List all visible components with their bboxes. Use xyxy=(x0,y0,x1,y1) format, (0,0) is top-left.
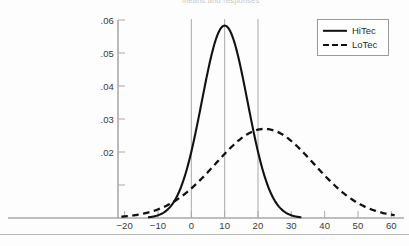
reference-line-group xyxy=(191,19,258,218)
x-tick-label-40: 40 xyxy=(319,220,330,231)
x-tick-label-50: 50 xyxy=(353,220,364,231)
y-tick-label-p02: .02 xyxy=(100,147,114,158)
x-tick-label-60: 60 xyxy=(386,220,397,231)
y-tick-label-p04: .04 xyxy=(100,81,114,92)
x-tick-label--10: −10 xyxy=(150,220,166,231)
y-tick-label-p05: .05 xyxy=(100,48,114,59)
legend-label-lotec: LoTec xyxy=(352,40,377,50)
y-tick-label-p03: .03 xyxy=(100,114,114,125)
y-tick-label-p06: .06 xyxy=(100,15,114,26)
legend-entry-lotec[interactable]: LoTec xyxy=(323,38,388,52)
legend-entry-hitec[interactable]: HiTec xyxy=(323,24,388,38)
bottom-horizontal-rule xyxy=(0,234,409,235)
x-tick-label--20: −20 xyxy=(116,220,132,231)
x-tick-label-30: 30 xyxy=(286,220,297,231)
x-tick-label-20: 20 xyxy=(253,220,264,231)
legend-label-hitec: HiTec xyxy=(352,26,376,36)
x-tick-label-0: 0 xyxy=(189,220,194,231)
legend-line-solid-icon xyxy=(323,26,347,36)
legend-line-dashed-icon xyxy=(323,40,347,50)
chart-legend: HiTec LoTec xyxy=(317,19,389,56)
x-tick-label-10: 10 xyxy=(219,220,230,231)
chart-figure: means and responses −20−100102030405060 … xyxy=(0,0,409,246)
